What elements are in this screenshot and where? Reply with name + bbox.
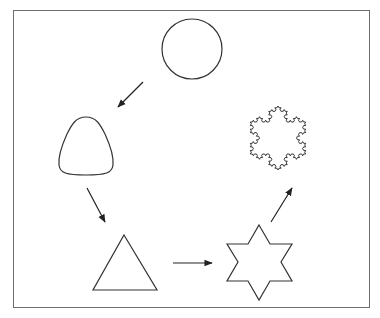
hexagram-shape: [227, 225, 292, 300]
arrow-circle-to-rounded-triangle: [118, 82, 143, 107]
arrow-rounded-triangle-to-triangle: [87, 188, 105, 222]
circle-shape: [162, 19, 222, 79]
koch-snowflake-shape: [250, 106, 305, 170]
rounded-triangle-shape: [59, 117, 113, 175]
triangle-shape: [93, 235, 157, 290]
arrow-hexagram-to-koch-snowflake: [271, 188, 292, 222]
diagram-canvas: [0, 0, 380, 318]
